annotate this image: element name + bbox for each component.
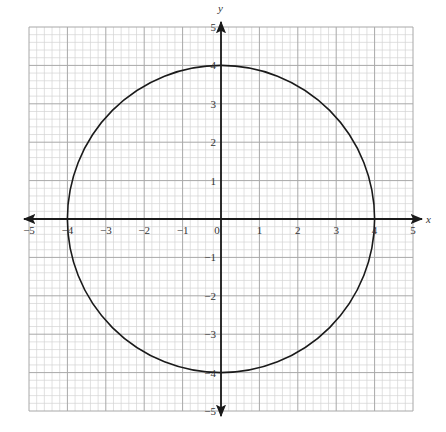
- y-tick-label: 2: [211, 136, 217, 148]
- x-tick-label: 4: [372, 224, 378, 236]
- x-tick-label: −1: [177, 224, 189, 236]
- x-tick-label: −3: [100, 224, 112, 236]
- coordinate-plane: xy−5−4−3−2−1012345−5−4−3−2−112345: [0, 0, 446, 432]
- x-axis-label: x: [425, 213, 431, 225]
- x-tick-label: 0: [214, 224, 220, 236]
- y-tick-label: 4: [211, 59, 217, 71]
- x-tick-label: 3: [333, 224, 339, 236]
- y-tick-label: −3: [204, 328, 216, 340]
- x-tick-label: −4: [62, 224, 74, 236]
- y-tick-label: 1: [211, 175, 217, 187]
- tick-labels: xy−5−4−3−2−1012345−5−4−3−2−112345: [23, 2, 431, 417]
- x-tick-label: −5: [23, 224, 35, 236]
- y-tick-label: −1: [204, 251, 216, 263]
- x-tick-label: −2: [138, 224, 150, 236]
- x-tick-label: 2: [295, 224, 301, 236]
- y-tick-label: 5: [211, 21, 217, 33]
- y-tick-label: 3: [211, 98, 217, 110]
- y-axis-label: y: [217, 2, 223, 14]
- x-tick-label: 1: [257, 224, 263, 236]
- y-tick-label: −4: [204, 367, 216, 379]
- y-tick-label: −2: [204, 290, 216, 302]
- y-tick-label: −5: [204, 405, 216, 417]
- x-tick-label: 5: [410, 224, 416, 236]
